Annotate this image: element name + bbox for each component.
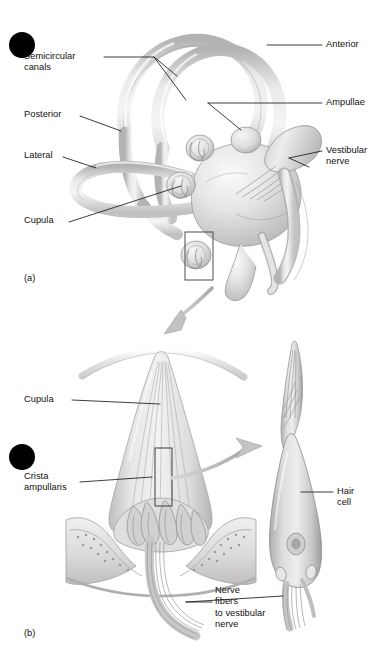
- label-posterior: Posterior: [24, 109, 61, 120]
- label-semicircular-canals: Semicircular canals: [24, 51, 75, 74]
- panel-b-id: (b): [24, 628, 35, 638]
- black-dot-marker-b: [9, 444, 35, 470]
- label-anterior: Anterior: [326, 39, 359, 50]
- label-vestibular-nerve: Vestibular nerve: [326, 145, 367, 168]
- label-lateral: Lateral: [24, 150, 53, 161]
- label-ampullae: Ampullae: [326, 97, 365, 108]
- panel-b-illustration: [66, 341, 333, 638]
- nerve-fibers-bundle: [147, 540, 204, 638]
- label-cupula-b: Cupula: [24, 394, 54, 405]
- label-cupula-a: Cupula: [24, 215, 54, 226]
- inner-ear-figure: Semicircular canals Posterior Lateral Cu…: [0, 0, 378, 651]
- panel-a-id: (a): [24, 273, 35, 283]
- label-crista-ampullaris: Crista ampullaris: [24, 471, 67, 494]
- panel-a-illustration: [63, 40, 322, 300]
- label-nerve-fibers: Nerve fibers to vestibular nerve: [215, 585, 265, 631]
- label-hair-cell: Hair cell: [337, 486, 354, 509]
- figure-canvas: [0, 0, 378, 651]
- hair-cell-enlargement: [270, 341, 322, 630]
- zoom-in-arrow: [164, 288, 212, 334]
